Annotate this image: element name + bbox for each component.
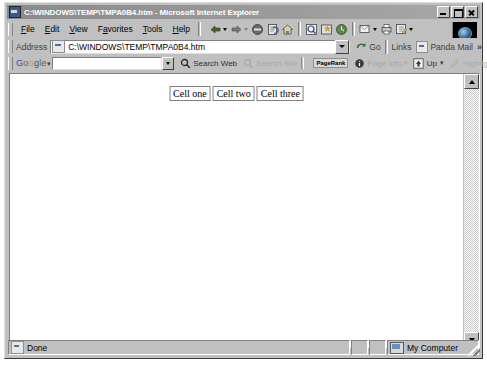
toolbar-separator-3: [352, 22, 355, 36]
edit-button[interactable]: [394, 22, 409, 36]
demo-table: Cell one Cell two Cell three: [167, 84, 306, 103]
mail-dropdown-icon[interactable]: [373, 28, 377, 31]
page-icon: [11, 341, 24, 354]
toolbar-separator-2: [298, 22, 301, 36]
address-input[interactable]: C:\WINDOWS\TEMP\TMPA0B4.htm: [50, 40, 350, 54]
page-info-label: Page Info: [367, 59, 401, 68]
status-pane-extra-2: [369, 340, 386, 355]
page-icon: [52, 40, 65, 53]
search-site-label: Search Site: [256, 59, 297, 68]
google-search-input[interactable]: [52, 57, 162, 70]
security-zone-pane: My Computer: [387, 340, 479, 355]
browser-client-area: Cell one Cell two Cell three: [9, 73, 480, 348]
screenshot-root: C:\WINDOWS\TEMP\TMPA0B4.htm - Microsoft …: [0, 0, 487, 370]
link-panda-mail[interactable]: Panda Mail: [416, 41, 473, 53]
google-logo: Google▾: [16, 58, 51, 68]
links-overflow-button[interactable]: »: [477, 42, 480, 52]
menu-item-tools[interactable]: Tools: [138, 23, 168, 35]
my-computer-icon: [390, 342, 404, 354]
favorites-button[interactable]: [319, 22, 334, 36]
info-icon: [353, 57, 365, 69]
security-zone-label: My Computer: [407, 343, 458, 353]
up-button[interactable]: Up ▾: [413, 57, 444, 69]
vertical-scrollbar[interactable]: [463, 74, 479, 347]
search-web-label: Search Web: [193, 59, 237, 68]
address-dropdown-button[interactable]: [335, 40, 349, 54]
menu-and-toolbar: File Edit View Favorites Tools Help: [7, 21, 480, 37]
minimize-button[interactable]: [437, 6, 450, 18]
back-button[interactable]: [208, 22, 223, 36]
mail-button[interactable]: [358, 22, 373, 36]
menu-bar: File Edit View Favorites Tools Help: [16, 23, 195, 35]
window-title: C:\WINDOWS\TEMP\TMPA0B4.htm - Microsoft …: [24, 8, 437, 17]
standard-toolbar: [208, 22, 415, 36]
demo-table-container: Cell one Cell two Cell three: [167, 84, 306, 103]
links-separator: [385, 40, 388, 54]
google-drag-handle[interactable]: [8, 57, 13, 70]
page-icon: [416, 41, 428, 53]
menu-drag-handle[interactable]: [8, 23, 13, 36]
menu-item-edit[interactable]: Edit: [40, 23, 65, 35]
home-button[interactable]: [280, 22, 295, 36]
forward-button[interactable]: [229, 22, 244, 36]
address-drag-handle[interactable]: [8, 40, 13, 53]
status-message-pane: Done: [8, 340, 350, 355]
google-site-icon: [242, 57, 254, 69]
go-arrow-icon: [355, 41, 367, 53]
browser-window: C:\WINDOWS\TEMP\TMPA0B4.htm - Microsoft …: [4, 2, 483, 359]
status-pane-extra-1: [351, 340, 368, 355]
toolbar-separator: [198, 22, 201, 36]
search-web-button[interactable]: Search Web: [179, 57, 237, 69]
search-site-button: Search Site: [242, 57, 297, 69]
link-label: Panda Mail: [430, 42, 473, 52]
forward-dropdown-icon[interactable]: [244, 28, 248, 31]
google-menu-dropdown-icon[interactable]: ▾: [47, 60, 51, 67]
menu-item-help[interactable]: Help: [168, 23, 195, 35]
address-bar: Address C:\WINDOWS\TEMP\TMPA0B4.htm Go L…: [7, 38, 480, 55]
ie-document-icon: [9, 6, 21, 18]
highlight-label: Highlight: [463, 59, 487, 68]
up-dropdown-icon[interactable]: ▾: [440, 59, 444, 67]
stop-button[interactable]: [250, 22, 265, 36]
google-magnifier-icon: [179, 57, 191, 69]
highlight-button: Highlight: [449, 57, 487, 69]
page-info-button: Page Info ▾: [353, 57, 407, 69]
table-cell-two: Cell two: [213, 86, 255, 101]
page-info-dropdown-icon: ▾: [404, 59, 408, 67]
table-row: Cell one Cell two Cell three: [169, 86, 304, 101]
edit-dropdown-icon[interactable]: [409, 28, 413, 31]
print-button[interactable]: [379, 22, 394, 36]
pagerank-icon: PageRank: [313, 58, 348, 68]
highlighter-icon: [449, 57, 461, 69]
search-button[interactable]: [304, 22, 319, 36]
maximize-button[interactable]: [451, 6, 464, 18]
status-message: Done: [27, 343, 47, 353]
up-label: Up: [427, 59, 437, 68]
go-label: Go: [369, 42, 380, 52]
google-search-dropdown-button[interactable]: [162, 57, 174, 70]
address-label: Address: [16, 42, 47, 52]
menu-item-file[interactable]: File: [16, 23, 40, 35]
title-bar[interactable]: C:\WINDOWS\TEMP\TMPA0B4.htm - Microsoft …: [7, 5, 480, 19]
close-button[interactable]: [465, 6, 478, 18]
refresh-button[interactable]: [265, 22, 280, 36]
window-controls: [437, 6, 478, 18]
go-button[interactable]: Go: [355, 41, 380, 53]
google-toolbar: Google▾ Search Web Search Site PageRank: [7, 55, 480, 71]
web-page-content: Cell one Cell two Cell three: [10, 74, 463, 347]
menu-item-favorites[interactable]: Favorites: [93, 23, 138, 35]
table-cell-three: Cell three: [257, 86, 304, 101]
pagerank-indicator: PageRank: [313, 58, 348, 68]
menu-item-view[interactable]: View: [64, 23, 92, 35]
scroll-up-button[interactable]: [464, 74, 479, 89]
up-arrow-icon: [413, 57, 425, 69]
google-separator-1: [301, 57, 304, 69]
address-value: C:\WINDOWS\TEMP\TMPA0B4.htm: [68, 42, 335, 52]
status-bar: Done My Computer: [8, 340, 479, 355]
back-dropdown-icon[interactable]: [223, 28, 227, 31]
history-button[interactable]: [334, 22, 349, 36]
links-label: Links: [392, 42, 412, 52]
table-cell-one: Cell one: [169, 86, 211, 101]
